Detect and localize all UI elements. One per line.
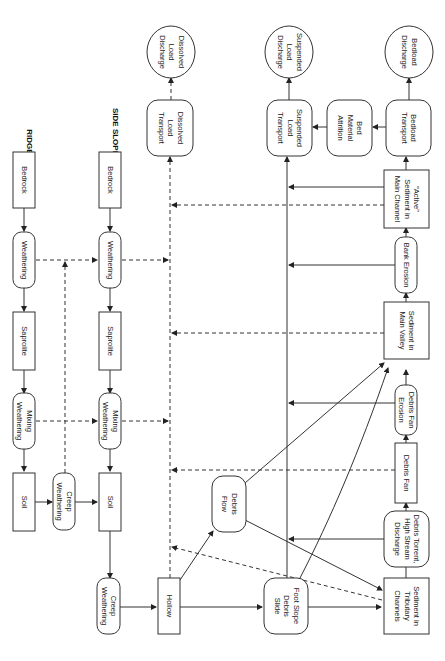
sediment-flow-diagram: RIDGE SIDE SLOPE BedrockWeatheringSaprol… (0, 0, 445, 661)
ridge-saprolite-node: Saprolite (13, 312, 35, 370)
node-label: Debris Torrent, (412, 514, 421, 563)
node-label: Weathering (101, 402, 110, 440)
bedload-transport-node: BedloadTransport (386, 100, 431, 156)
node-label: Bank Erosion (402, 243, 411, 288)
hollow-node: Hollow (158, 578, 180, 634)
node-label: Bedrock (106, 166, 115, 194)
node-label: Tributary (403, 591, 412, 621)
node-label: Weathering (55, 482, 64, 520)
node-label: Main Valley (398, 311, 407, 349)
node-label: Slide (273, 598, 282, 615)
creep-weathering-2-node: CreepWeathering (97, 578, 120, 634)
node-label: Saprolite (106, 326, 115, 356)
side-mixing-weathering-node: MixingWeathering (99, 393, 121, 449)
bedload-discharge-node: BedloadDischarge (385, 26, 433, 78)
node-label: Sediment in (412, 586, 421, 626)
node-label: Bed (355, 121, 364, 134)
node-label: Load (167, 44, 176, 61)
node-label: Weathering (15, 402, 24, 440)
node-label: Load (166, 120, 175, 137)
debris-torrent-node: Debris Torrent,High StreamDischarge (384, 511, 429, 567)
node-label: Mixing (25, 410, 34, 432)
node-label: Hollow (165, 595, 174, 618)
node-label: Creep (109, 596, 118, 616)
node-label: Transport (400, 112, 409, 145)
node-label: Foot Slope (292, 588, 301, 624)
dissolved-load-transport-node: DissolvedLoadTransport (147, 100, 193, 156)
node-label: Creep (65, 491, 74, 511)
node-label: Transport (276, 112, 285, 145)
node-label: Attrition (336, 115, 345, 140)
active-sediment-main-channel-node: “Active”Sediment inMain Channel (384, 170, 429, 228)
node-label: Dissolved (177, 36, 186, 69)
side-soil-node: Soil (99, 473, 121, 531)
debris-fan-node: Debris Fan (395, 443, 417, 503)
side-slope-header: SIDE SLOPE (111, 108, 120, 157)
node-label: Debris Fan (407, 392, 416, 429)
node-label: Flow (220, 496, 229, 512)
creep-weathering-1-node: CreepWeathering (53, 473, 75, 530)
node-label: Discharge (400, 35, 409, 69)
foot-slope-debris-slide-node: Foot SlopeDebrisSlide (264, 578, 308, 634)
node-label: Mixing (111, 410, 120, 432)
ridge-bedrock-node: Bedrock (13, 152, 35, 208)
node-label: Discharge (393, 522, 402, 556)
ridge-weathering-node: Weathering (13, 232, 35, 288)
node-label: High Stream (403, 518, 412, 560)
node-label: Soil (20, 496, 29, 509)
node-label: Bedrock (20, 166, 29, 194)
side-saprolite-node: Saprolite (99, 312, 121, 370)
node-label: Weathering (100, 587, 109, 625)
node-label: Bedload (410, 38, 419, 66)
ridge-header: RIDGE (25, 129, 34, 155)
node-label: Debris (230, 493, 239, 515)
ridge-mixing-weathering-node: MixingWeathering (13, 393, 35, 449)
node-label: Weathering (20, 241, 29, 279)
node-label: Transport (157, 112, 166, 145)
node-label: Channels (393, 590, 402, 622)
node-label: Soil (106, 496, 115, 509)
dissolved-load-discharge-node: DissolvedLoadDischarge (147, 26, 195, 78)
debris-fan-erosion-node: Debris FanErosion (395, 385, 417, 435)
node-label: Discharge (158, 35, 167, 69)
node-label: Erosion (397, 397, 406, 422)
node-label: Dissolved (176, 112, 185, 145)
node-label: Sediment in (407, 311, 416, 351)
node-label: Suspended (295, 33, 304, 71)
sediment-main-valley-node: Sediment inMain Valley (384, 302, 429, 359)
node-label: Load (285, 44, 294, 61)
node-label: Weathering (106, 241, 115, 279)
side-weathering-node: Weathering (99, 232, 121, 288)
node-label: Saprolite (20, 326, 29, 356)
node-label: “Active” (412, 186, 421, 212)
node-label: Main Channel (393, 176, 402, 223)
node-label: Discharge (276, 35, 285, 69)
bank-erosion-node: Bank Erosion (395, 237, 417, 293)
node-label: Sediment in (403, 179, 412, 219)
node-label: Material (346, 115, 355, 142)
debris-flow-node: DebrisFlow (212, 476, 246, 532)
node-label: Suspended (295, 109, 304, 147)
node-label: Debris Fan (402, 455, 411, 492)
suspended-load-transport-node: SuspendedLoadTransport (267, 100, 312, 156)
node-label: Debris (282, 595, 291, 617)
side-bedrock-node: Bedrock (99, 152, 121, 208)
node-label: Load (286, 120, 295, 137)
sediment-tributary-channels-node: Sediment inTributaryChannels (384, 578, 429, 634)
bed-material-attrition-node: BedMaterialAttrition (327, 100, 372, 156)
ridge-soil-node: Soil (13, 473, 35, 531)
suspended-load-discharge-node: SuspendedLoadDischarge (265, 26, 313, 78)
node-label: Bedload (409, 114, 418, 142)
